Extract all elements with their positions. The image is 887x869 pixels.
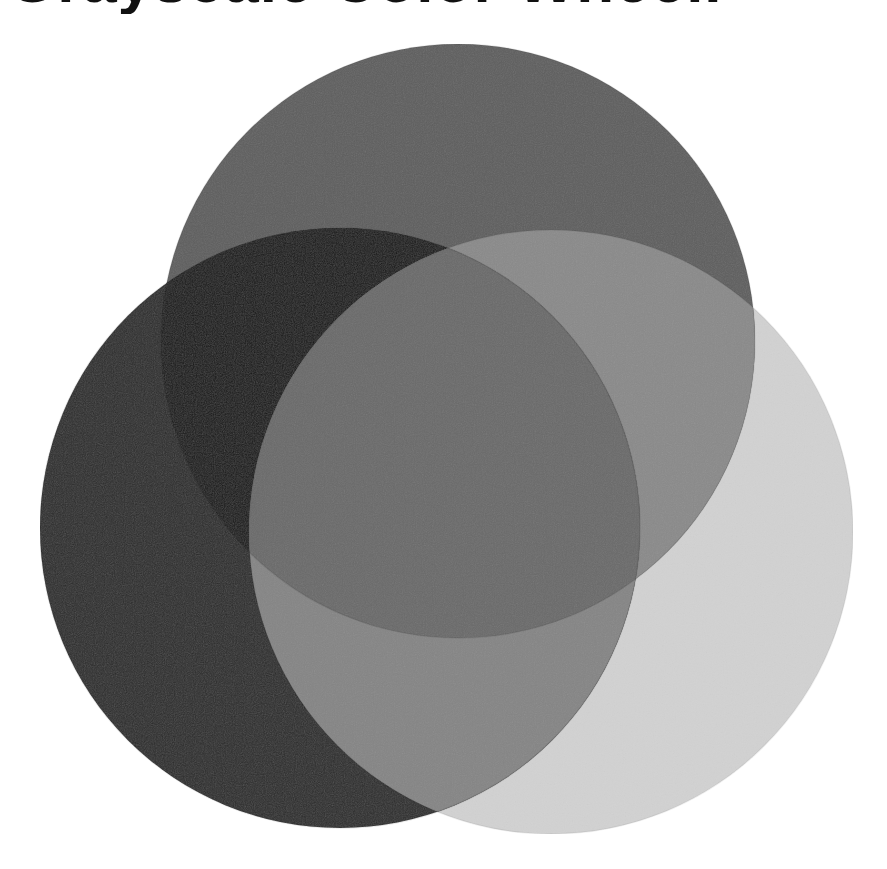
overlapping-circles-painting — [0, 0, 887, 869]
